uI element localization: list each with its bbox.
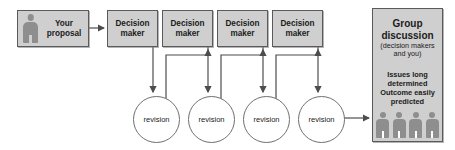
diagram-canvas: Your proposal Decision maker Decision ma… [0, 0, 455, 150]
person-icon-3-head [413, 112, 419, 118]
revision-node-3[interactable]: revision [243, 96, 290, 143]
revision-node-2[interactable]: revision [188, 96, 235, 143]
decision-maker-node-1[interactable]: Decision maker [107, 10, 158, 47]
decision-maker-node-3[interactable]: Decision maker [217, 10, 268, 47]
person-icon-head [27, 14, 34, 21]
person-icon-2-head [396, 112, 402, 118]
group-discussion-subtitle: (decision makers and you) [373, 42, 442, 59]
revision-label-2: revision [198, 115, 224, 124]
person-icon-4-head [429, 112, 435, 118]
proposal-label: Your proposal [40, 19, 88, 37]
person-icon-1-head [380, 112, 386, 118]
decision-maker-label-4: Decision maker [273, 19, 322, 37]
revision-label-3: revision [253, 115, 279, 124]
decision-maker-label-1: Decision maker [108, 19, 157, 37]
revision-label-4: revision [308, 115, 334, 124]
decision-maker-label-2: Decision maker [163, 19, 212, 37]
person-icon-4-body [426, 119, 439, 138]
person-icon-1-body [376, 119, 389, 138]
person-icon-2 [393, 112, 406, 138]
group-discussion-title: Group discussion [373, 18, 442, 41]
person-icon-1 [376, 112, 389, 138]
decision-maker-node-4[interactable]: Decision maker [272, 10, 323, 47]
revision-node-1[interactable]: revision [133, 96, 180, 143]
group-people-icons [376, 110, 439, 138]
revision-label-1: revision [143, 115, 169, 124]
person-icon-3-body [409, 119, 422, 138]
revision-node-4[interactable]: revision [298, 96, 345, 143]
person-icon-body [23, 22, 38, 43]
person-icon-3 [409, 112, 422, 138]
group-discussion-note: Issues long determined Outcome easily pr… [373, 70, 442, 106]
person-icon-2-body [393, 119, 406, 138]
decision-maker-node-2[interactable]: Decision maker [162, 10, 213, 47]
person-icon-4 [426, 112, 439, 138]
person-icon [23, 14, 38, 43]
decision-maker-label-3: Decision maker [218, 19, 267, 37]
